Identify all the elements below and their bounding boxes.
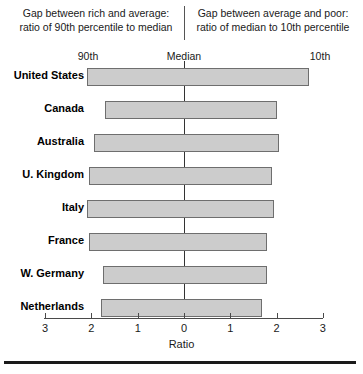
axis-tick-label: 2 [78, 322, 104, 334]
bar-australia [94, 134, 279, 152]
table-row: Australia [0, 130, 363, 163]
axis-tick-label: 3 [32, 322, 58, 334]
axis-tick [277, 313, 278, 318]
table-row: Italy [0, 196, 363, 229]
x-axis: 3210123 [0, 318, 363, 319]
axis-tick [45, 313, 46, 318]
country-label: United States [0, 69, 84, 81]
country-label: W. Germany [0, 267, 84, 279]
bar-w-germany [103, 266, 267, 284]
percentile-label-90th: 90th [60, 50, 116, 62]
bar-canada [105, 101, 276, 119]
table-row: United States [0, 64, 363, 97]
axis-tick [230, 313, 231, 318]
bar-italy [87, 200, 275, 218]
axis-tick-label: 2 [264, 322, 290, 334]
plot-area: United StatesCanadaAustraliaU. KingdomIt… [0, 64, 363, 320]
bar-france [89, 233, 267, 251]
country-label: Australia [0, 135, 84, 147]
caption-right-line2: ratio of median to 10th percentile [188, 21, 358, 35]
table-row: W. Germany [0, 262, 363, 295]
axis-tick [91, 313, 92, 318]
bottom-rule [4, 361, 356, 364]
axis-tick [323, 313, 324, 318]
country-label: Italy [0, 201, 84, 213]
x-axis-line [44, 318, 323, 319]
caption-right-line1: Gap between average and poor: [188, 7, 358, 21]
chart-container: Gap between rich and average: ratio of 9… [0, 0, 363, 374]
country-label: Canada [0, 102, 84, 114]
bar-netherlands [101, 299, 262, 317]
table-row: France [0, 229, 363, 262]
country-label: Netherlands [0, 300, 84, 312]
percentile-label-10th: 10th [294, 50, 346, 62]
caption-left: Gap between rich and average: ratio of 9… [12, 7, 180, 34]
axis-tick-label: 3 [310, 322, 336, 334]
axis-tick [138, 313, 139, 318]
table-row: Canada [0, 97, 363, 130]
bar-u-kingdom [89, 167, 272, 185]
header-divider [184, 6, 185, 40]
caption-left-line1: Gap between rich and average: [12, 7, 180, 21]
table-row: U. Kingdom [0, 163, 363, 196]
bar-united-states [87, 68, 309, 86]
axis-tick [184, 313, 185, 318]
axis-tick-label: 0 [171, 322, 197, 334]
x-axis-title: Ratio [0, 338, 363, 350]
country-label: France [0, 234, 84, 246]
caption-left-line2: ratio of 90th percentile to median [12, 21, 180, 35]
country-label: U. Kingdom [0, 168, 84, 180]
caption-right: Gap between average and poor: ratio of m… [188, 7, 358, 34]
axis-tick-label: 1 [125, 322, 151, 334]
axis-tick-label: 1 [217, 322, 243, 334]
